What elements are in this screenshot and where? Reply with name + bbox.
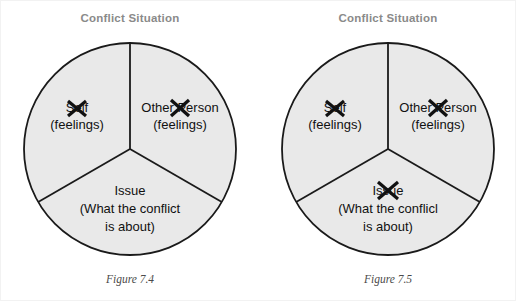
conflict-circle-diagram-7-5: Self (feelings) Other Person (feelings) … — [275, 36, 501, 268]
figure-caption: Figure 7.4 — [1, 273, 259, 285]
figure-page: Conflict Situation Self (feelings) Other… — [0, 0, 516, 301]
other-person-sublabel: (feelings) — [411, 117, 464, 132]
issue-label: Issue — [114, 183, 145, 198]
self-sublabel: (feelings) — [50, 117, 103, 132]
figure-panel-7-4: Conflict Situation Self (feelings) Other… — [1, 1, 259, 301]
conflict-circle-diagram-7-4: Self (feelings) Other Person (feelings) … — [17, 36, 243, 268]
figure-panel-7-5: Conflict Situation Self (feelings) Other… — [259, 1, 516, 301]
page-title: Conflict Situation — [259, 12, 516, 24]
figure-caption: Figure 7.5 — [259, 273, 516, 285]
issue-sublabel-line2: is about) — [105, 219, 155, 234]
issue-sublabel-line2: is about) — [363, 219, 413, 234]
self-sublabel: (feelings) — [308, 117, 361, 132]
page-title: Conflict Situation — [1, 12, 259, 24]
issue-sublabel-line1: (What the conflict — [80, 201, 181, 216]
issue-sublabel-line1: (What the conflicl — [338, 201, 438, 216]
other-person-sublabel: (feelings) — [153, 117, 206, 132]
